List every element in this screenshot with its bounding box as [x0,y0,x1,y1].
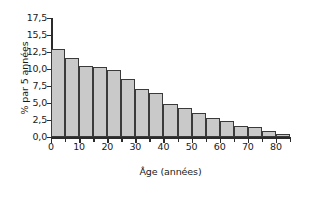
bar [220,121,234,137]
bar [65,58,79,137]
y-axis-tick-label: 7,5 [20,81,47,91]
y-axis-tick-mark [47,52,51,53]
y-axis-tick-label: 10,0 [20,64,47,74]
y-axis-tick-label: 5,0 [20,98,47,108]
bar-series [51,18,290,137]
bar [79,66,93,137]
bar [121,79,135,137]
x-axis-tick-label: 30 [120,141,150,153]
x-axis-tick-label: 80 [261,141,291,153]
x-axis-tick-label: 20 [92,141,122,153]
y-axis-tick-mark [47,18,51,19]
x-axis-tick-label: 50 [177,141,207,153]
bar [163,104,177,137]
bar [192,113,206,137]
y-axis-tick-labels: 0,02,55,07,510,012,515,517,5 [20,18,47,137]
y-axis-tick-label: 15,5 [20,30,47,40]
x-axis-line [51,137,290,139]
bar [149,93,163,137]
x-axis-tick-label: 60 [205,141,235,153]
y-axis-tick-mark [47,69,51,70]
y-axis-tick-mark [47,120,51,121]
bar [93,67,107,137]
bar [276,134,290,137]
bar [234,126,248,137]
y-axis-tick-mark [47,86,51,87]
x-axis-tick-label: 40 [148,141,178,153]
y-axis-tick-label: 2,5 [20,115,47,125]
y-axis-tick-mark [47,35,51,36]
x-axis-tick-labels: 01020304050607080 [51,141,290,155]
age-distribution-histogram: % par 5 années 0,02,55,07,510,012,515,51… [0,0,315,199]
y-axis-tick-label: 17,5 [20,13,47,23]
y-axis-tick-label: 12,5 [20,47,47,57]
bar [51,49,65,137]
plot-area [51,18,290,137]
x-axis-tick-label: 10 [64,141,94,153]
bar [107,70,121,137]
y-axis-tick-mark [47,103,51,104]
x-axis-tick-label: 0 [36,141,66,153]
x-axis-tick-label: 70 [233,141,263,153]
bar [248,127,262,137]
bar [178,108,192,137]
x-axis-title: Âge (années) [51,166,290,177]
bar [262,131,276,137]
bar [206,118,220,137]
bar [135,89,149,137]
